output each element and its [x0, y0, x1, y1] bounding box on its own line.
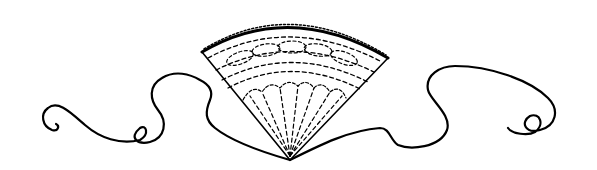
right-ribbon	[290, 66, 555, 160]
fan-ribbon-artwork	[0, 0, 597, 170]
left-ribbon	[43, 74, 290, 160]
fan-left-edge	[202, 52, 290, 160]
fan-scallops	[243, 82, 346, 100]
decorative-illustration: Hand fan with flowing ribbons	[0, 0, 597, 170]
fan-stitching	[208, 37, 382, 90]
fan-right-edge	[290, 58, 388, 160]
